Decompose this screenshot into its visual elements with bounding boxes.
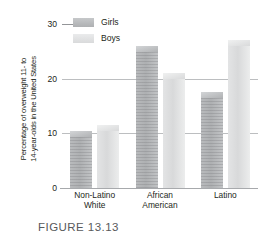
y-tick-label-20: 20 xyxy=(47,74,57,83)
chart-legend: Girls Boys xyxy=(73,14,120,46)
bar-group-container xyxy=(62,24,258,188)
bar-body xyxy=(201,98,223,188)
y-axis-label-line2: 14-year-olds in the United States xyxy=(29,28,39,190)
bar-body xyxy=(136,52,158,188)
bar-body xyxy=(228,46,250,188)
bar-girls-2 xyxy=(201,92,223,188)
y-axis-label-line1: Percentage of overweight 11- to xyxy=(19,28,29,190)
bar-girls-1 xyxy=(136,46,158,188)
category-label-line2: White xyxy=(62,200,127,210)
x-axis-category-labels: Non-LatinoWhiteAfricanAmericanLatino xyxy=(62,190,258,218)
category-label-1: AfricanAmerican xyxy=(127,190,192,211)
plot-area: 0102030 xyxy=(62,24,258,188)
legend-label-girls: Girls xyxy=(101,18,119,27)
bar-boys-0 xyxy=(97,125,119,188)
bar-body xyxy=(97,131,119,188)
category-label-2: Latino xyxy=(193,190,258,200)
legend-item-girls: Girls xyxy=(73,14,120,30)
bar-boys-1 xyxy=(163,73,185,188)
legend-swatch-girls-icon xyxy=(73,18,94,27)
bar-girls-0 xyxy=(70,131,92,188)
figure-container: Percentage of overweight 11- to 14-year-… xyxy=(0,0,266,234)
figure-caption: FIGURE 13.13 xyxy=(38,221,119,234)
bar-body xyxy=(163,79,185,188)
category-label-0: Non-LatinoWhite xyxy=(62,190,127,211)
y-tick-label-10: 10 xyxy=(47,129,57,138)
bar-boys-2 xyxy=(228,40,250,188)
legend-label-boys: Boys xyxy=(101,34,120,43)
category-label-line2: American xyxy=(127,200,192,210)
y-tick-label-30: 30 xyxy=(47,20,57,29)
category-label-line1: Non-Latino xyxy=(62,190,127,200)
y-axis-label: Percentage of overweight 11- to 14-year-… xyxy=(12,28,46,190)
bar-body xyxy=(70,137,92,188)
category-label-line1: Latino xyxy=(193,190,258,200)
category-label-line1: African xyxy=(127,190,192,200)
y-tick-label-0: 0 xyxy=(52,184,57,193)
legend-swatch-boys-icon xyxy=(73,34,94,43)
legend-item-boys: Boys xyxy=(73,30,120,46)
